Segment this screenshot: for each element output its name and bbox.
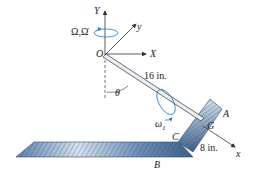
y-axis-arrow: [105, 24, 136, 55]
omega-rotation-icon: [94, 29, 118, 37]
omega1-symbol: ω: [155, 118, 162, 129]
point-c-label: C: [172, 132, 179, 142]
point-a-label: A: [223, 109, 229, 119]
omega-label: Ω,Ω̇: [71, 27, 88, 37]
x-axis-label: x: [236, 149, 240, 159]
origin-label: O: [96, 49, 103, 59]
diagram: Y y X O Ω,Ω̇ 16 in. θ ω1 A G C 8 in. x B: [0, 0, 254, 175]
theta-label: θ: [115, 88, 120, 98]
y-axis-label: y: [137, 22, 141, 32]
X-axis-label: X: [150, 49, 156, 59]
plate-length-label: 8 in.: [200, 143, 218, 153]
point-g-label: G: [207, 121, 214, 131]
Y-axis-label: Y: [94, 6, 100, 16]
plate-b: [16, 142, 193, 157]
point-b-label: B: [154, 160, 160, 170]
omega1-label: ω1: [155, 119, 166, 132]
rod-length-label: 16 in.: [144, 71, 167, 81]
omega1-subscript: 1: [162, 124, 166, 132]
